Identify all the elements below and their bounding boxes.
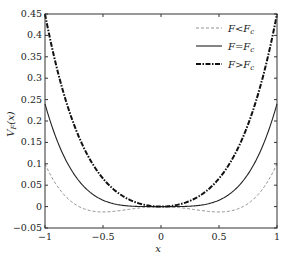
y-tick-label: 0 (36, 201, 42, 212)
y-tick-label: 0.2 (27, 115, 42, 126)
y-axis-label: VF(x) (5, 111, 18, 137)
y-tick-label: 0.1 (27, 158, 42, 169)
y-tick-label: 0.05 (21, 179, 42, 190)
legend: F<FcF=FcF>Fc (196, 23, 254, 72)
y-tick-label: 0.4 (27, 29, 42, 40)
legend-label: F=Fc (227, 41, 254, 54)
x-tick-label: 0 (158, 231, 164, 242)
y-tick-label: 0.15 (21, 136, 42, 147)
potential-chart: −1−0.500.51−0.0500.050.10.150.20.250.30.… (0, 0, 284, 260)
series-line-1 (45, 104, 277, 207)
series-line-0 (45, 164, 277, 212)
legend-label: F<Fc (227, 23, 254, 36)
y-tick-label: 0.35 (21, 51, 42, 62)
x-tick-label: 0.5 (211, 231, 226, 242)
y-tick-label: 0.45 (21, 8, 42, 19)
x-axis-label: x (155, 243, 161, 254)
x-tick-label: 1 (274, 231, 280, 242)
x-tick-label: −0.5 (91, 231, 114, 242)
y-tick-label: 0.3 (27, 72, 42, 83)
legend-label: F>Fc (227, 59, 254, 72)
y-tick-label: 0.25 (21, 94, 42, 105)
y-tick-label: −0.05 (13, 222, 42, 233)
